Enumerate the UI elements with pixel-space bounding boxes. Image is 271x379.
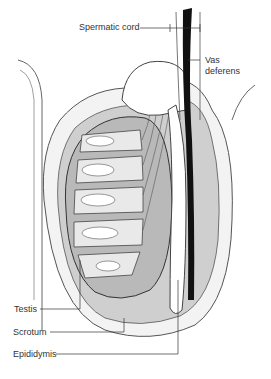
testis-anatomy-diagram: Spermatic cord Vas deferens Testis Scrot… <box>0 0 271 379</box>
label-spermatic-cord: Spermatic cord <box>79 22 140 32</box>
body-wall-left-inner <box>20 70 34 300</box>
label-epididymis: Epididymis <box>13 349 57 359</box>
label-testis: Testis <box>14 304 37 314</box>
diagram-illustration <box>0 0 271 379</box>
body-wall-left-outer <box>18 60 42 330</box>
label-vas-deferens-line2: deferens <box>205 66 240 76</box>
label-scrotum: Scrotum <box>13 327 47 337</box>
body-wall-right <box>232 85 255 120</box>
label-vas-deferens-line1: Vas <box>205 55 220 65</box>
